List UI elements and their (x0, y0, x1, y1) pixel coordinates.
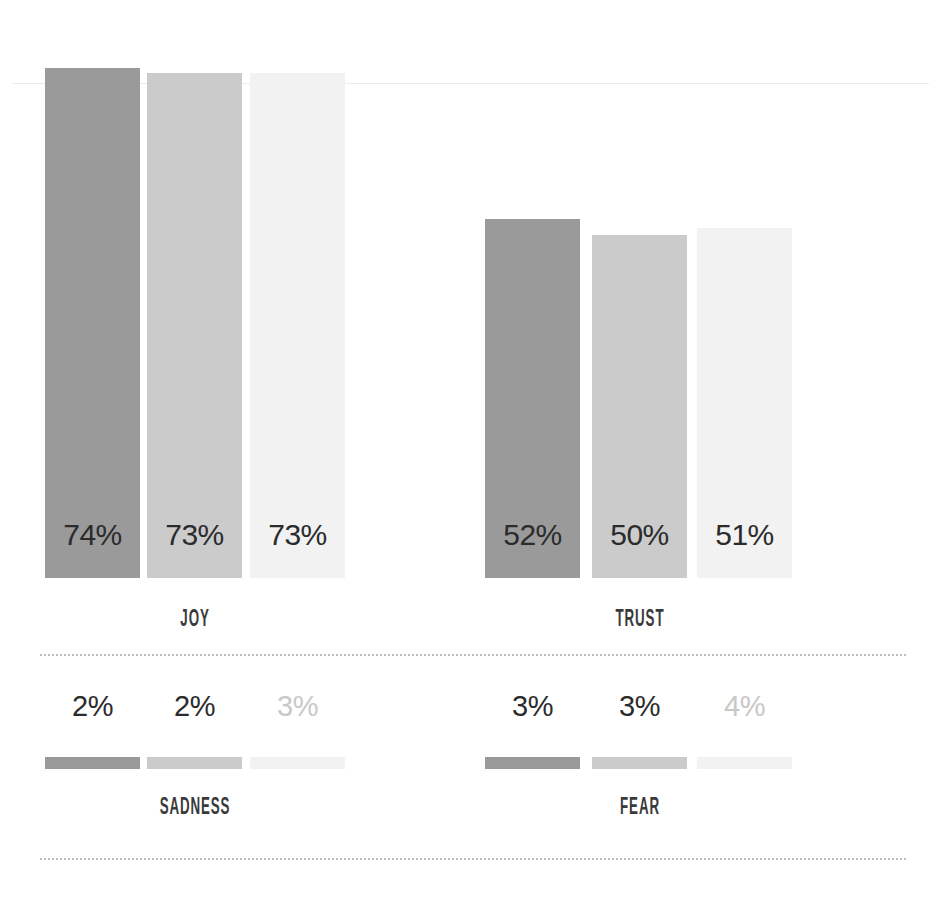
category-label-fear: FEAR (582, 793, 698, 820)
separator-lower (40, 858, 906, 860)
bar-value-fear-series-3: 4% (697, 690, 792, 723)
bar-value-sadness-series-1: 2% (45, 690, 140, 723)
bar-sadness-series-2[interactable] (147, 757, 242, 769)
bar-fear-series-3[interactable] (697, 757, 792, 769)
bar-value-sadness-series-2: 2% (147, 690, 242, 723)
bar-value-fear-series-1: 3% (485, 690, 580, 723)
bar-fear-series-2[interactable] (592, 757, 687, 769)
bar-fear-series-1[interactable] (485, 757, 580, 769)
bar-value-fear-series-2: 3% (592, 690, 687, 723)
bar-sadness-series-1[interactable] (45, 757, 140, 769)
bar-sadness-series-3[interactable] (250, 757, 345, 769)
category-label-sadness: SADNESS (137, 793, 253, 820)
lower-bar-panels: 2% 2% 3% SADNESS 3% 3% 4% FEAR (0, 0, 941, 905)
bar-value-sadness-series-3: 3% (250, 690, 345, 723)
bar-chart: 74% 73% 73% JOY 52% 50% 51% TRUST 2% 2% … (0, 0, 941, 905)
